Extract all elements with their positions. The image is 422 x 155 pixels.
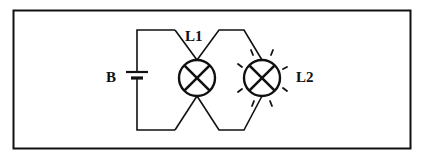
wire-bottom-cross-a [175,96,197,130]
lamp-L2 [244,60,280,96]
wire-bottom-cross-b [197,96,262,130]
lamp-L1-label: L1 [185,28,203,44]
wire-left-top [137,30,175,72]
wire-left-bottom [137,84,175,130]
lamp-L2-label: L2 [296,69,314,85]
diagram-frame [14,11,411,149]
lamp-L1 [179,60,215,96]
battery-label: B [106,69,116,85]
wire-top-cross-b [197,30,262,60]
circuit-diagram: B L1 L2 [0,0,422,155]
battery-B [126,72,148,84]
